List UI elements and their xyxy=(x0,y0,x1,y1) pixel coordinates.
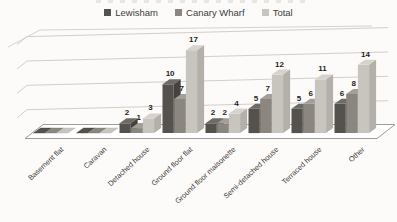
data-label-canary-wharf-ground-floor-flat: 7 xyxy=(180,84,185,93)
data-label-lewisham-ground-floor-flat: 10 xyxy=(166,69,175,78)
data-label-total-other: 14 xyxy=(361,50,370,59)
bar-canary-wharf-ground-floor-maisonette xyxy=(217,123,228,133)
data-label-total-ground-floor-maisonette: 4 xyxy=(234,99,239,108)
bar-total-ground-floor-flat xyxy=(186,50,197,133)
bar-total-terraced-house-side xyxy=(326,74,333,133)
category-label-caravan: Caravan xyxy=(82,145,109,171)
bar-total-semi-detached-house xyxy=(272,75,283,133)
category-label-detached-house: Detached house xyxy=(106,145,152,188)
bar-total-other-side xyxy=(369,60,376,133)
bar-lewisham-ground-floor-maisonette xyxy=(206,123,217,133)
bar-total-other xyxy=(358,65,369,133)
data-label-canary-wharf-detached-house: 1 xyxy=(137,113,142,122)
bar-lewisham-detached-house xyxy=(120,123,131,133)
bar-canary-wharf-semi-detached-house xyxy=(260,99,271,133)
data-label-total-semi-detached-house: 12 xyxy=(275,60,284,69)
data-label-total-terraced-house: 11 xyxy=(318,64,327,73)
bar-total-ground-floor-maisonette xyxy=(229,114,240,134)
bar-canary-wharf-terraced-house xyxy=(303,104,314,133)
bar-lewisham-other xyxy=(335,104,346,133)
data-label-canary-wharf-other: 8 xyxy=(352,79,357,88)
data-label-canary-wharf-ground-floor-maisonette: 2 xyxy=(223,108,228,117)
bar-lewisham-semi-detached-house xyxy=(249,109,260,133)
data-label-canary-wharf-terraced-house: 6 xyxy=(309,89,314,98)
bar-total-ground-floor-flat-side xyxy=(197,45,204,133)
data-label-lewisham-terraced-house: 5 xyxy=(297,94,302,103)
data-label-lewisham-other: 6 xyxy=(340,89,345,98)
bar-lewisham-terraced-house xyxy=(292,109,303,133)
data-label-total-ground-floor-flat: 17 xyxy=(189,35,198,44)
category-label-terraced-house: Terraced house xyxy=(280,145,323,186)
data-label-lewisham-detached-house: 2 xyxy=(125,108,130,117)
bar-canary-wharf-ground-floor-flat xyxy=(174,99,185,133)
data-label-total-detached-house: 3 xyxy=(148,103,153,112)
data-label-lewisham-semi-detached-house: 5 xyxy=(254,94,259,103)
bar-canary-wharf-other xyxy=(346,94,357,133)
bar-lewisham-ground-floor-flat xyxy=(163,84,174,133)
bar-total-terraced-house xyxy=(315,79,326,133)
bar-total-semi-detached-house-side xyxy=(283,70,290,133)
plot-svg: Basement flatCaravan213Detached house107… xyxy=(0,0,397,222)
bar-total-detached-house xyxy=(143,118,154,133)
category-label-ground-floor-flat: Ground floor flat xyxy=(149,145,194,188)
data-label-lewisham-ground-floor-maisonette: 2 xyxy=(211,108,216,117)
bar-canary-wharf-detached-house xyxy=(131,128,142,133)
gridline-20 xyxy=(17,28,388,45)
category-label-other: Other xyxy=(347,145,367,165)
data-label-canary-wharf-semi-detached-house: 7 xyxy=(266,84,271,93)
category-label-basement-flat: Basement flat xyxy=(26,145,65,182)
